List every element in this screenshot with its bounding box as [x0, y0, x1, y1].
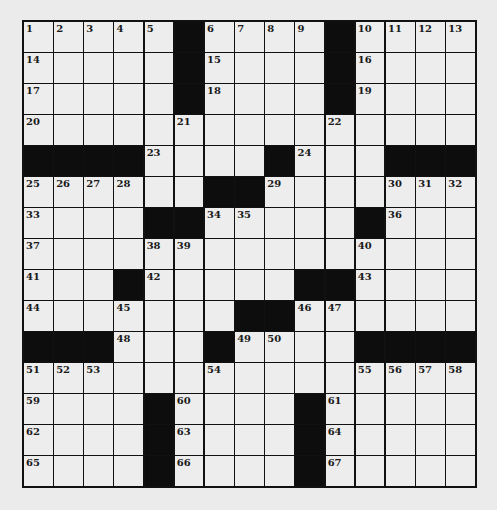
crossword-cell[interactable]: 22: [326, 115, 355, 145]
crossword-cell[interactable]: [145, 363, 174, 393]
crossword-cell[interactable]: 8: [265, 22, 294, 52]
crossword-cell[interactable]: 63: [175, 425, 204, 455]
crossword-cell[interactable]: [54, 270, 83, 300]
crossword-cell[interactable]: [295, 53, 324, 83]
crossword-cell[interactable]: [416, 208, 445, 238]
crossword-cell[interactable]: [295, 239, 324, 269]
crossword-cell[interactable]: [54, 425, 83, 455]
crossword-cell[interactable]: 49: [235, 332, 264, 362]
crossword-cell[interactable]: [265, 456, 294, 486]
crossword-cell[interactable]: [446, 270, 475, 300]
crossword-cell[interactable]: [54, 53, 83, 83]
crossword-cell[interactable]: [54, 301, 83, 331]
crossword-cell[interactable]: [84, 239, 113, 269]
crossword-cell[interactable]: [326, 146, 355, 176]
crossword-cell[interactable]: [295, 332, 324, 362]
crossword-cell[interactable]: [265, 53, 294, 83]
crossword-cell[interactable]: 13: [446, 22, 475, 52]
crossword-cell[interactable]: [356, 394, 385, 424]
crossword-cell[interactable]: [446, 115, 475, 145]
crossword-cell[interactable]: 12: [416, 22, 445, 52]
crossword-cell[interactable]: 11: [386, 22, 415, 52]
crossword-cell[interactable]: 60: [175, 394, 204, 424]
crossword-cell[interactable]: [235, 394, 264, 424]
crossword-cell[interactable]: 29: [265, 177, 294, 207]
crossword-cell[interactable]: [205, 239, 234, 269]
crossword-cell[interactable]: 15: [205, 53, 234, 83]
crossword-cell[interactable]: 9: [295, 22, 324, 52]
crossword-cell[interactable]: 62: [24, 425, 53, 455]
crossword-cell[interactable]: [446, 239, 475, 269]
crossword-cell[interactable]: [175, 270, 204, 300]
crossword-cell[interactable]: [356, 177, 385, 207]
crossword-cell[interactable]: 20: [24, 115, 53, 145]
crossword-cell[interactable]: 19: [356, 84, 385, 114]
crossword-cell[interactable]: 44: [24, 301, 53, 331]
crossword-cell[interactable]: [205, 394, 234, 424]
crossword-cell[interactable]: [114, 456, 143, 486]
crossword-cell[interactable]: [84, 425, 113, 455]
crossword-cell[interactable]: [446, 53, 475, 83]
crossword-cell[interactable]: 40: [356, 239, 385, 269]
crossword-cell[interactable]: [145, 301, 174, 331]
crossword-cell[interactable]: [114, 425, 143, 455]
crossword-cell[interactable]: [416, 394, 445, 424]
crossword-cell[interactable]: 54: [205, 363, 234, 393]
crossword-cell[interactable]: 23: [145, 146, 174, 176]
crossword-cell[interactable]: [416, 456, 445, 486]
crossword-cell[interactable]: 7: [235, 22, 264, 52]
crossword-cell[interactable]: [145, 53, 174, 83]
crossword-cell[interactable]: [54, 394, 83, 424]
crossword-cell[interactable]: [235, 270, 264, 300]
crossword-cell[interactable]: [295, 363, 324, 393]
crossword-cell[interactable]: 65: [24, 456, 53, 486]
crossword-cell[interactable]: [416, 270, 445, 300]
crossword-cell[interactable]: [356, 115, 385, 145]
crossword-cell[interactable]: 17: [24, 84, 53, 114]
crossword-cell[interactable]: [235, 53, 264, 83]
crossword-cell[interactable]: 3: [84, 22, 113, 52]
crossword-cell[interactable]: [326, 208, 355, 238]
crossword-cell[interactable]: [114, 208, 143, 238]
crossword-cell[interactable]: 53: [84, 363, 113, 393]
crossword-cell[interactable]: [446, 456, 475, 486]
crossword-cell[interactable]: [84, 208, 113, 238]
crossword-cell[interactable]: [205, 270, 234, 300]
crossword-cell[interactable]: [205, 146, 234, 176]
crossword-cell[interactable]: [265, 363, 294, 393]
crossword-cell[interactable]: [114, 363, 143, 393]
crossword-cell[interactable]: [265, 239, 294, 269]
crossword-cell[interactable]: 50: [265, 332, 294, 362]
crossword-cell[interactable]: 51: [24, 363, 53, 393]
crossword-cell[interactable]: [446, 394, 475, 424]
crossword-cell[interactable]: 27: [84, 177, 113, 207]
crossword-cell[interactable]: [205, 301, 234, 331]
crossword-cell[interactable]: 42: [145, 270, 174, 300]
crossword-cell[interactable]: [235, 84, 264, 114]
crossword-cell[interactable]: [84, 301, 113, 331]
crossword-cell[interactable]: [356, 146, 385, 176]
crossword-cell[interactable]: 55: [356, 363, 385, 393]
crossword-cell[interactable]: [175, 177, 204, 207]
crossword-cell[interactable]: 5: [145, 22, 174, 52]
crossword-cell[interactable]: [386, 239, 415, 269]
crossword-cell[interactable]: [175, 332, 204, 362]
crossword-cell[interactable]: 18: [205, 84, 234, 114]
crossword-cell[interactable]: [114, 394, 143, 424]
crossword-cell[interactable]: 56: [386, 363, 415, 393]
crossword-cell[interactable]: [84, 456, 113, 486]
crossword-cell[interactable]: [356, 425, 385, 455]
crossword-cell[interactable]: [416, 239, 445, 269]
crossword-cell[interactable]: [54, 115, 83, 145]
crossword-cell[interactable]: 21: [175, 115, 204, 145]
crossword-cell[interactable]: [446, 208, 475, 238]
crossword-cell[interactable]: [265, 425, 294, 455]
crossword-cell[interactable]: 37: [24, 239, 53, 269]
crossword-cell[interactable]: 67: [326, 456, 355, 486]
crossword-cell[interactable]: [54, 239, 83, 269]
crossword-cell[interactable]: 61: [326, 394, 355, 424]
crossword-cell[interactable]: [205, 425, 234, 455]
crossword-cell[interactable]: [205, 456, 234, 486]
crossword-cell[interactable]: 14: [24, 53, 53, 83]
crossword-cell[interactable]: 57: [416, 363, 445, 393]
